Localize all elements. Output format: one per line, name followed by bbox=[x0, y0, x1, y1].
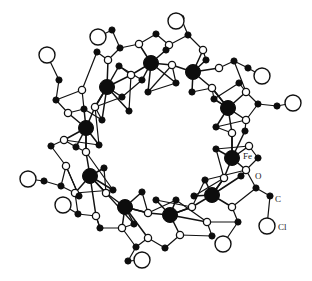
atom-o bbox=[91, 103, 98, 110]
diagram-background bbox=[0, 0, 312, 281]
atom-cl bbox=[168, 13, 184, 29]
atom-c bbox=[116, 63, 122, 69]
label-cl: Cl bbox=[278, 222, 287, 232]
atom-o bbox=[228, 203, 235, 210]
atom-c bbox=[48, 143, 54, 149]
atom-cl bbox=[55, 197, 71, 213]
atom-c bbox=[131, 221, 137, 227]
atom-o bbox=[242, 88, 249, 95]
atom-c bbox=[75, 211, 81, 217]
atom-c bbox=[101, 165, 107, 171]
atom-o bbox=[220, 174, 227, 181]
atom-c bbox=[235, 219, 241, 225]
atom-c bbox=[145, 89, 151, 95]
atom-o bbox=[215, 64, 222, 71]
atom-fe bbox=[163, 208, 178, 223]
atom-o bbox=[228, 129, 235, 136]
atom-c bbox=[96, 142, 102, 148]
atom-c bbox=[97, 225, 103, 231]
atom-c bbox=[185, 32, 191, 38]
atom-o bbox=[245, 142, 252, 149]
atom-fe bbox=[144, 56, 159, 71]
atom-c bbox=[125, 258, 131, 264]
atom-fe bbox=[225, 151, 240, 166]
atom-c bbox=[253, 185, 259, 191]
atom-o bbox=[188, 203, 195, 210]
atom-c bbox=[245, 65, 251, 71]
atom-cl bbox=[90, 29, 106, 45]
atom-c bbox=[58, 183, 64, 189]
atom-c bbox=[189, 89, 195, 95]
atom-cl bbox=[259, 218, 275, 234]
atom-c bbox=[153, 31, 159, 37]
atom-c bbox=[202, 177, 208, 183]
atom-c bbox=[94, 49, 100, 55]
atom-fe bbox=[79, 121, 94, 136]
atom-c bbox=[213, 124, 219, 130]
atom-o bbox=[60, 136, 67, 143]
atom-o bbox=[118, 224, 125, 231]
atom-c bbox=[209, 233, 215, 239]
atom-o bbox=[242, 166, 249, 173]
atom-o bbox=[127, 71, 134, 78]
atom-o bbox=[104, 56, 111, 63]
atom-c bbox=[238, 173, 244, 179]
atom-c bbox=[139, 189, 145, 195]
atom-o bbox=[144, 234, 151, 241]
atom-cl bbox=[254, 68, 270, 84]
atom-o bbox=[78, 86, 85, 93]
label-fe: Fe bbox=[243, 151, 252, 161]
atom-cl bbox=[39, 47, 55, 63]
atom-c bbox=[153, 197, 159, 203]
atom-c bbox=[56, 77, 62, 83]
atom-o bbox=[82, 148, 89, 155]
atom-o bbox=[144, 209, 151, 216]
atom-c bbox=[109, 27, 115, 33]
atom-c bbox=[242, 128, 248, 134]
atom-fe bbox=[83, 169, 98, 184]
atom-c bbox=[173, 80, 179, 86]
atom-c bbox=[126, 108, 132, 114]
label-c: C bbox=[275, 194, 281, 204]
atom-c bbox=[211, 96, 217, 102]
atom-c bbox=[99, 117, 105, 123]
atom-o bbox=[176, 231, 183, 238]
atom-c bbox=[213, 146, 219, 152]
atom-o bbox=[168, 61, 175, 68]
atom-o bbox=[203, 218, 210, 225]
atom-fe bbox=[100, 80, 115, 95]
atom-o bbox=[199, 46, 206, 53]
atom-o bbox=[208, 84, 215, 91]
atom-c bbox=[117, 45, 123, 51]
atom-c bbox=[163, 47, 169, 53]
atom-o bbox=[135, 40, 142, 47]
atom-fe bbox=[221, 101, 236, 116]
atom-c bbox=[267, 193, 273, 199]
atom-cl bbox=[285, 95, 301, 111]
label-o: O bbox=[255, 171, 262, 181]
atom-c bbox=[119, 94, 125, 100]
atom-cl bbox=[215, 236, 231, 252]
atom-c bbox=[76, 193, 82, 199]
atom-c bbox=[162, 245, 168, 251]
atom-o bbox=[64, 109, 71, 116]
atom-fe bbox=[118, 200, 133, 215]
atom-fe bbox=[205, 188, 220, 203]
atom-c bbox=[73, 144, 79, 150]
atom-c bbox=[236, 80, 242, 86]
atom-c bbox=[41, 178, 47, 184]
molecule-svg: FeOCCl bbox=[0, 0, 312, 281]
atom-c bbox=[53, 97, 59, 103]
atom-c bbox=[139, 77, 145, 83]
atom-c bbox=[255, 155, 261, 161]
atom-cl bbox=[20, 171, 36, 187]
atom-fe bbox=[186, 65, 201, 80]
atom-c bbox=[203, 57, 209, 63]
atom-c bbox=[81, 106, 87, 112]
atom-o bbox=[102, 189, 109, 196]
atom-o bbox=[242, 116, 249, 123]
atom-o bbox=[92, 212, 99, 219]
atom-c bbox=[133, 244, 139, 250]
atom-cl bbox=[134, 252, 150, 268]
atom-c bbox=[191, 193, 197, 199]
